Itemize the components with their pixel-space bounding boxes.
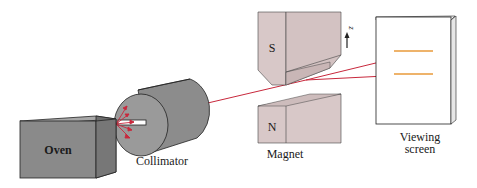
oven-label: Oven	[44, 143, 72, 157]
viewing-screen	[376, 16, 456, 124]
z-axis-arrow	[345, 32, 350, 48]
screen-label-line2: screen	[405, 142, 436, 156]
north-pole-label: N	[268, 120, 277, 134]
z-axis-label: z	[347, 25, 357, 30]
magnet-north-pole	[258, 94, 341, 143]
south-pole-label: S	[269, 41, 276, 55]
magnet-label: Magnet	[267, 147, 304, 161]
stern-gerlach-diagram: Oven Collimator S N Magnet z	[0, 0, 477, 188]
collimator	[114, 79, 210, 156]
collimator-label: Collimator	[136, 154, 188, 168]
